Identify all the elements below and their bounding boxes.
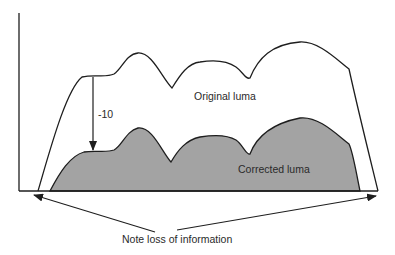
luma-diagram xyxy=(0,0,395,255)
original-luma-label: Original luma xyxy=(194,90,256,102)
offset-label: -10 xyxy=(98,108,113,120)
loss-arrow-right xyxy=(177,196,376,230)
corrected-luma-area xyxy=(50,118,360,191)
note-loss-label: Note loss of information xyxy=(122,233,232,245)
corrected-luma-label: Corrected luma xyxy=(238,163,310,175)
loss-arrow-left xyxy=(34,195,155,232)
